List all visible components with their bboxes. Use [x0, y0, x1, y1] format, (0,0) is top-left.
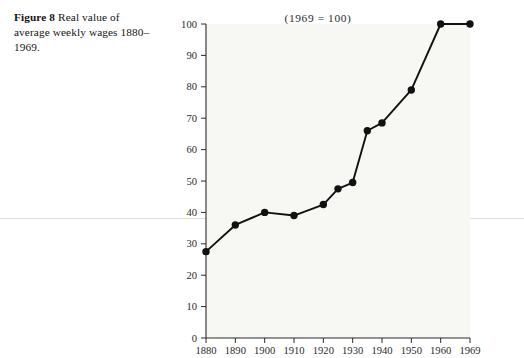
data-point-marker: [364, 127, 371, 134]
x-axis-tick-label: 1930: [342, 345, 363, 356]
x-axis-tick-label: 1910: [283, 345, 304, 356]
x-axis-tick-label: 1900: [254, 345, 275, 356]
data-point-marker: [466, 20, 473, 27]
plot-background: [206, 24, 470, 338]
y-axis-tick-label: 100: [181, 19, 197, 30]
data-point-marker: [349, 179, 356, 186]
y-axis-tick-label: 20: [186, 270, 197, 281]
y-axis-tick-label: 50: [186, 176, 197, 187]
x-axis-tick-label: 1969: [459, 345, 480, 356]
y-axis-ticks: [201, 24, 206, 338]
x-axis-tick-label: 1960: [430, 345, 451, 356]
data-point-marker: [378, 119, 385, 126]
x-axis-tick-label: 1880: [195, 345, 216, 356]
x-axis-tick-label: 1940: [371, 345, 392, 356]
y-axis-tick-label: 40: [186, 207, 197, 218]
data-point-marker: [334, 185, 341, 192]
y-axis-tick-label: 90: [186, 50, 197, 61]
y-axis-tick-label: 30: [186, 238, 197, 249]
y-axis-tick-label: 0: [192, 333, 197, 344]
y-axis-tick-labels: 0102030405060708090100: [181, 19, 197, 344]
plot-background-group: [206, 24, 470, 338]
x-axis-ticks: [206, 338, 470, 343]
x-axis-tick-label: 1920: [313, 345, 334, 356]
y-axis-tick-label: 70: [186, 113, 197, 124]
chart-figure: 0102030405060708090100 18801890190019101…: [0, 0, 524, 358]
x-axis-tick-labels: 1880189019001910192019301940195019601969: [195, 345, 480, 356]
data-point-marker: [232, 221, 239, 228]
data-point-marker: [261, 209, 268, 216]
y-axis-tick-label: 60: [186, 144, 197, 155]
data-point-marker: [437, 20, 444, 27]
y-axis-tick-label: 80: [186, 81, 197, 92]
chart-title: (1969 = 100): [285, 12, 352, 25]
data-point-marker: [320, 201, 327, 208]
data-point-marker: [290, 212, 297, 219]
data-point-marker: [202, 248, 209, 255]
y-axis-tick-label: 10: [186, 301, 197, 312]
x-axis-tick-label: 1950: [401, 345, 422, 356]
data-point-marker: [408, 86, 415, 93]
x-axis-tick-label: 1890: [225, 345, 246, 356]
